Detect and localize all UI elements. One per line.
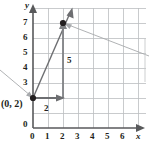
x-tick-3: 3 [75, 132, 80, 141]
y-axis-label: y [25, 1, 29, 10]
x-axis-label: x [136, 132, 141, 141]
run-arrow [33, 94, 65, 101]
y-tick-7: 7 [23, 18, 28, 27]
run-label: 2 [44, 104, 49, 113]
x-tick-2: 2 [60, 132, 65, 141]
slope-graph-figure: 7 6 5 4 3 0 0 1 2 3 4 5 6 y x 5 2 (0, 2) [0, 0, 149, 144]
y-tick-6: 6 [23, 33, 28, 42]
x-tick-5: 5 [105, 132, 110, 141]
point-0-2 [30, 95, 36, 101]
rise-arrow [59, 20, 67, 98]
rise-label: 5 [67, 56, 72, 65]
x-tick-0: 0 [30, 132, 35, 141]
point-2-7 [60, 20, 66, 26]
y-tick-0: 0 [23, 120, 28, 129]
grid-lines [33, 8, 146, 128]
x-tick-4: 4 [90, 132, 95, 141]
x-tick-6: 6 [120, 132, 125, 141]
x-tick-1: 1 [45, 132, 50, 141]
point-label-0-2: (0, 2) [1, 99, 23, 109]
y-tick-3: 3 [23, 78, 28, 87]
y-tick-4: 4 [23, 63, 28, 72]
y-tick-5: 5 [23, 48, 28, 57]
